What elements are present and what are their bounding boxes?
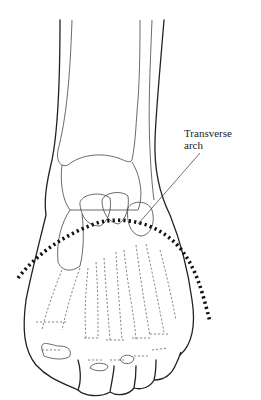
phalanx-row <box>36 322 170 360</box>
leg-outline-left <box>24 20 78 390</box>
leg-outline-right <box>155 20 194 355</box>
toenail-2 <box>90 363 108 371</box>
metatarsal-1 <box>42 268 80 330</box>
toenail-big <box>42 344 71 360</box>
metatarsal-5 <box>146 244 176 332</box>
metatarsal-2 <box>85 262 98 338</box>
metatarsal-4 <box>124 245 150 340</box>
toenail-3 <box>120 355 134 363</box>
toe-outline <box>78 352 181 395</box>
metatarsal-3 <box>104 252 122 340</box>
tibia <box>57 20 140 166</box>
cuboid <box>128 202 154 236</box>
transverse-arch-label-line2: arch <box>184 139 232 151</box>
talus <box>61 162 141 210</box>
transverse-arch-label-line1: Transverse <box>184 127 232 139</box>
cuneiform-lateral <box>58 210 84 270</box>
fibula <box>149 20 154 200</box>
transverse-arch-label: Transverse arch <box>184 127 232 151</box>
transverse-arch-line <box>18 220 210 322</box>
foot-anatomy-diagram <box>0 0 261 400</box>
